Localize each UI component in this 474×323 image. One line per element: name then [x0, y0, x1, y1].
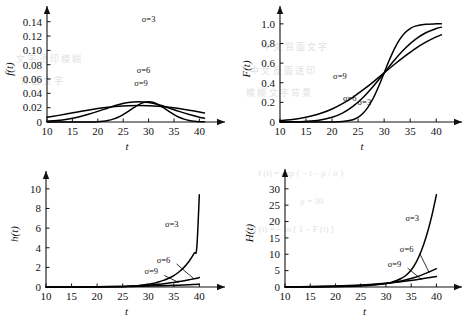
series-label-σ6: σ=6	[157, 255, 171, 265]
x-tick-label: 40	[431, 290, 443, 302]
x-tick-label: 25	[118, 125, 130, 137]
y-tick-label: 0.4	[261, 77, 275, 89]
x-tick-label: 10	[280, 290, 292, 302]
y-axis-title: F(t)	[240, 60, 253, 78]
x-axis-title: t	[125, 140, 129, 152]
y-axis-arrow-icon	[43, 171, 49, 179]
y-tick-label: 0	[36, 281, 42, 293]
x-tick-label: 30	[143, 125, 155, 137]
figure-reliability-plots: 中 文 背 面 文 字中 文 反 面 透 印模 糊 文 字 背 景文 字 透 印…	[0, 0, 474, 323]
x-tick-label: 15	[66, 290, 78, 302]
x-tick-label: 10	[41, 290, 53, 302]
x-tick-label: 25	[355, 290, 367, 302]
x-tick-label: 30	[143, 290, 155, 302]
curve-σ3	[46, 195, 199, 287]
panel-pdf: 1015202530354000.020.040.060.080.100.120…	[0, 0, 237, 161]
x-tick-label: 25	[353, 125, 365, 137]
series-label-σ6: σ=6	[343, 93, 357, 103]
y-tick-label: 0.2	[261, 96, 275, 108]
y-tick-label: 0.8	[261, 37, 275, 49]
series-label-σ3: σ=3	[142, 14, 156, 24]
y-tick-label: 0.08	[23, 59, 43, 71]
y-tick-label: 4	[36, 242, 42, 254]
x-tick-label: 30	[379, 125, 391, 137]
y-axis-title: h(t)	[8, 226, 21, 242]
panel-cumulative-hazard: 10152025303540051015202530tH(t)σ=3σ=6σ=9	[237, 161, 474, 322]
series-label-σ6: σ=6	[137, 65, 151, 75]
y-tick-label: 0	[275, 281, 281, 293]
x-tick-label: 15	[67, 125, 79, 137]
plot-cdf: 1015202530354000.20.40.60.81.0tF(t)σ=3σ=…	[237, 0, 474, 161]
y-tick-label: 10	[30, 183, 42, 195]
x-tick-label: 10	[42, 125, 54, 137]
panel-hazard: 101520253035400246810th(t)σ=3σ=6σ=9	[0, 161, 237, 322]
y-tick-label: 0.14	[23, 16, 43, 28]
y-tick-label: 0.02	[23, 101, 42, 113]
x-axis-arrow-icon	[454, 284, 462, 290]
x-tick-label: 10	[275, 125, 287, 137]
x-axis-arrow-icon	[217, 284, 225, 290]
x-tick-label: 20	[327, 125, 339, 137]
x-tick-label: 20	[92, 125, 104, 137]
x-tick-label: 35	[406, 290, 418, 302]
y-tick-label: 0	[37, 116, 43, 128]
series-label-σ3: σ=3	[358, 97, 372, 107]
y-tick-label: 0.06	[23, 73, 43, 85]
panel-cdf: 1015202530354000.20.40.60.81.0tF(t)σ=3σ=…	[237, 0, 474, 161]
series-label-σ6: σ=6	[400, 244, 414, 254]
series-leader-line	[420, 253, 430, 273]
x-axis-title: t	[125, 305, 129, 317]
x-tick-label: 30	[380, 290, 392, 302]
x-tick-label: 15	[305, 290, 317, 302]
x-tick-label: 15	[301, 125, 313, 137]
x-tick-label: 20	[330, 290, 342, 302]
x-axis-title: t	[363, 305, 367, 317]
plot-pdf: 1015202530354000.020.040.060.080.100.120…	[0, 0, 237, 161]
plot-cumulative-hazard: 10152025303540051015202530tH(t)σ=3σ=6σ=9	[237, 161, 474, 322]
y-tick-label: 2	[36, 261, 42, 273]
curve-σ9	[280, 35, 441, 121]
x-tick-label: 20	[92, 290, 104, 302]
curve-σ6	[280, 27, 441, 122]
y-axis-arrow-icon	[44, 6, 50, 14]
y-tick-label: 0.12	[23, 30, 42, 42]
x-axis-title: t	[360, 140, 364, 152]
x-tick-label: 35	[168, 125, 180, 137]
series-label-σ3: σ=3	[405, 213, 419, 223]
y-tick-label: 5	[275, 264, 281, 276]
x-tick-label: 25	[117, 290, 129, 302]
y-tick-label: 1.0	[261, 18, 275, 30]
series-label-σ9: σ=9	[144, 266, 158, 276]
y-axis-title: f(t)	[3, 62, 16, 76]
y-axis-arrow-icon	[277, 6, 283, 14]
y-tick-label: 20	[269, 215, 281, 227]
y-tick-label: 30	[269, 183, 281, 195]
y-tick-label: 0.04	[23, 87, 43, 99]
y-tick-label: 0	[270, 116, 276, 128]
x-tick-label: 40	[194, 290, 206, 302]
y-axis-arrow-icon	[282, 169, 288, 177]
y-tick-label: 10	[269, 248, 281, 260]
y-tick-label: 0.10	[23, 44, 43, 56]
x-tick-label: 40	[194, 125, 206, 137]
series-label-σ3: σ=3	[165, 219, 179, 229]
x-axis-arrow-icon	[454, 119, 462, 125]
plot-hazard: 101520253035400246810th(t)σ=3σ=6σ=9	[0, 161, 237, 322]
y-tick-label: 25	[269, 199, 281, 211]
series-label-σ9: σ=9	[333, 71, 347, 81]
x-tick-label: 35	[168, 290, 180, 302]
series-label-σ9: σ=9	[388, 259, 402, 269]
y-tick-label: 15	[269, 232, 281, 244]
x-tick-label: 35	[405, 125, 417, 137]
x-tick-label: 40	[431, 125, 443, 137]
y-tick-label: 0.6	[261, 57, 275, 69]
y-axis-title: H(t)	[243, 224, 256, 244]
x-axis-arrow-icon	[217, 119, 225, 125]
y-tick-label: 6	[36, 222, 42, 234]
y-tick-label: 8	[36, 202, 42, 214]
series-label-σ9: σ=9	[134, 78, 148, 88]
